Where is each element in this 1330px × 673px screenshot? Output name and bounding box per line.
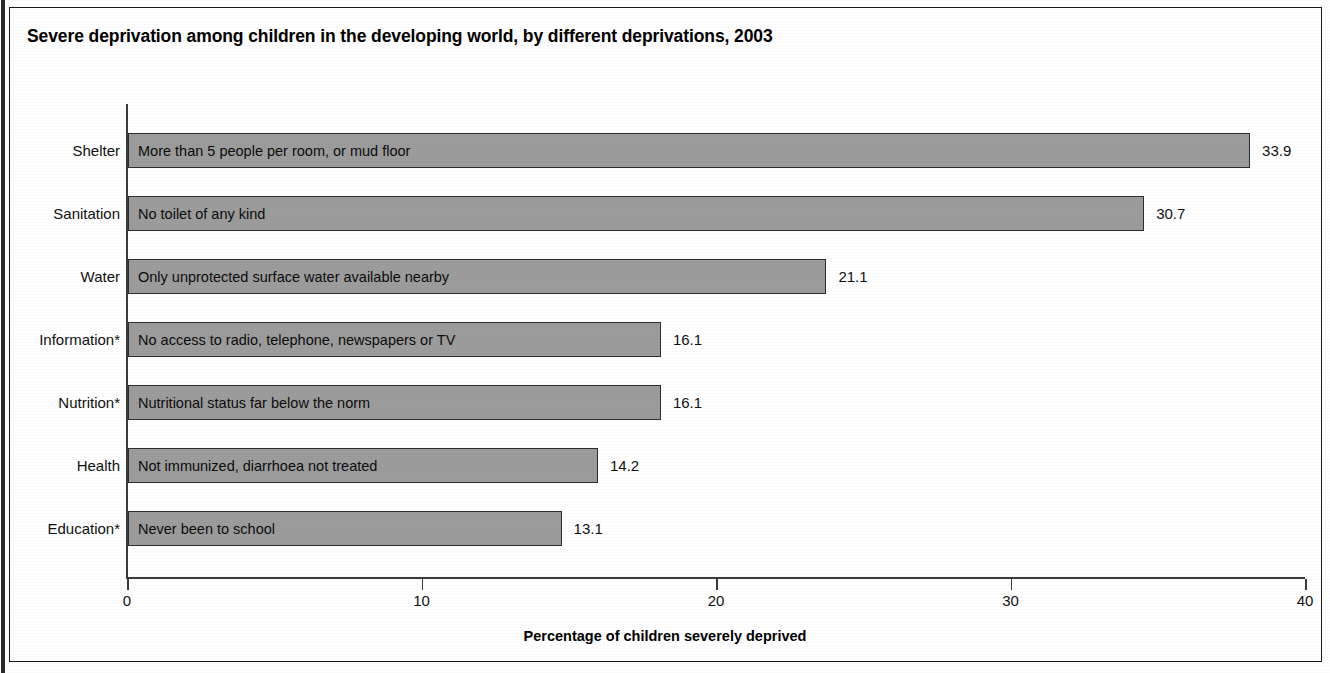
x-axis-tick-label: 0: [123, 592, 131, 609]
bar: More than 5 people per room, or mud floo…: [128, 133, 1250, 168]
bar-description-label: Nutritional status far below the norm: [138, 386, 370, 421]
bar: No toilet of any kind: [128, 196, 1144, 231]
bar-description-label: No access to radio, telephone, newspaper…: [138, 323, 455, 358]
bar-value-label: 21.1: [838, 259, 867, 294]
bar-description-label: Not immunized, diarrhoea not treated: [138, 449, 377, 484]
bar-category-label: Education*: [47, 511, 120, 546]
bar-value-label: 13.1: [574, 511, 603, 546]
bar-row: Information*No access to radio, telephon…: [0, 322, 1330, 357]
x-axis-tick-label: 20: [708, 592, 725, 609]
bar-description-label: Only unprotected surface water available…: [138, 260, 449, 295]
bar: Nutritional status far below the norm: [128, 385, 661, 420]
bar-category-label: Information*: [39, 322, 120, 357]
bar-value-label: 16.1: [673, 385, 702, 420]
bar-category-label: Nutrition*: [58, 385, 120, 420]
x-axis-title: Percentage of children severely deprived: [0, 628, 1330, 644]
bar: Never been to school: [128, 511, 562, 546]
x-axis-tick: [127, 579, 129, 590]
bar-category-label: Sanitation: [53, 196, 120, 231]
bar-row: Education*Never been to school13.1: [0, 511, 1330, 546]
x-axis-tick: [1011, 579, 1013, 590]
bar-row: Nutrition*Nutritional status far below t…: [0, 385, 1330, 420]
bar-value-label: 16.1: [673, 322, 702, 357]
bar-value-label: 14.2: [610, 448, 639, 483]
bar: No access to radio, telephone, newspaper…: [128, 322, 661, 357]
bar-category-label: Health: [77, 448, 120, 483]
x-axis-tick: [1305, 579, 1307, 590]
bar-category-label: Shelter: [72, 133, 120, 168]
bar-value-label: 33.9: [1262, 133, 1291, 168]
x-axis-tick-label: 10: [413, 592, 430, 609]
chart-figure: Severe deprivation among children in the…: [0, 0, 1330, 673]
bar: Not immunized, diarrhoea not treated: [128, 448, 598, 483]
bar-row: ShelterMore than 5 people per room, or m…: [0, 133, 1330, 168]
bar: Only unprotected surface water available…: [128, 259, 826, 294]
x-axis-tick-label: 30: [1002, 592, 1019, 609]
bar-description-label: No toilet of any kind: [138, 197, 265, 232]
bar-row: SanitationNo toilet of any kind30.7: [0, 196, 1330, 231]
bar-description-label: Never been to school: [138, 512, 275, 547]
x-axis-tick-label: 40: [1297, 592, 1314, 609]
bar-category-label: Water: [81, 259, 120, 294]
plot-area: 010203040ShelterMore than 5 people per r…: [0, 0, 1330, 673]
bar-value-label: 30.7: [1156, 196, 1185, 231]
bar-row: WaterOnly unprotected surface water avai…: [0, 259, 1330, 294]
x-axis-tick: [716, 579, 718, 590]
bar-description-label: More than 5 people per room, or mud floo…: [138, 134, 410, 169]
bar-row: HealthNot immunized, diarrhoea not treat…: [0, 448, 1330, 483]
x-axis-tick: [422, 579, 424, 590]
